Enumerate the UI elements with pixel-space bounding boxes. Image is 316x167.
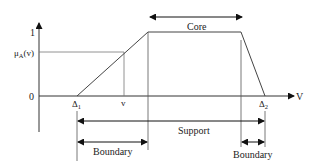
core-label: Core [187, 21, 207, 32]
membership-curve [77, 32, 265, 96]
boundary-left-label: Boundary [93, 146, 132, 157]
y-top-label: 1 [30, 27, 35, 38]
boundary-right-label: Boundary [233, 149, 272, 160]
v-label: v [121, 98, 126, 108]
x-axis-label: V [296, 91, 304, 102]
membership-function-diagram: 1 0 μA(v) V Δ1 v Δ2 Core Support Boundar… [0, 0, 316, 167]
support-label: Support [178, 125, 210, 136]
mu-label: μA(v) [14, 48, 34, 59]
delta2-label: Δ2 [259, 99, 268, 110]
delta1-label: Δ1 [72, 99, 81, 110]
y-zero-label: 0 [29, 91, 34, 102]
